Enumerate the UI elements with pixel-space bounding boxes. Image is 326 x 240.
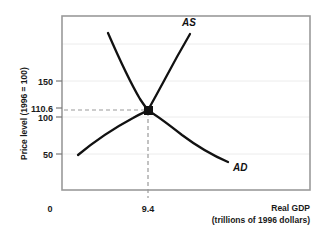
x-axis-title: Real GDP [271, 203, 310, 213]
y-tick-label-100: 100 [38, 113, 53, 123]
as-ad-chart: 150 110.6 100 50 Price level (1996 = 100… [0, 0, 326, 240]
ad-curve-label: AD [232, 162, 247, 173]
equilibrium-point-marker [144, 106, 153, 115]
y-tick-label-50: 50 [43, 150, 53, 160]
y-axis-ticks [56, 81, 62, 154]
chart-canvas: 150 110.6 100 50 Price level (1996 = 100… [0, 0, 326, 240]
as-curve-label: AS [181, 17, 196, 28]
x-axis-subtitle: (trillions of 1996 dollars) [212, 215, 310, 225]
x-tick-label-9-4: 9.4 [142, 204, 155, 214]
y-axis-title: Price level (1996 = 100) [19, 67, 29, 160]
y-tick-label-150: 150 [38, 77, 53, 87]
x-tick-label-0: 0 [47, 204, 52, 214]
